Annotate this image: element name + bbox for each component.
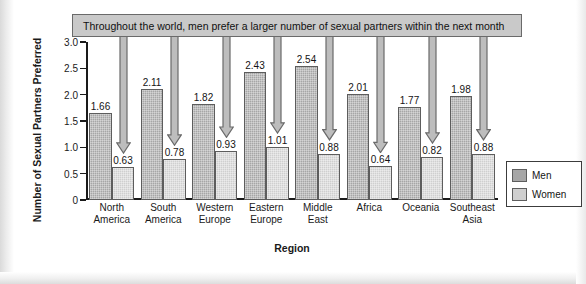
y-axis-tick xyxy=(80,68,86,69)
callout-banner: Throughout the world, men prefer a large… xyxy=(72,14,522,37)
bar-value-label: 2.43 xyxy=(245,60,264,71)
y-axis-title: Number of Sexual Partners Preferred xyxy=(31,35,43,225)
bar-value-label: 1.66 xyxy=(91,101,110,112)
chart-legend: Men Women xyxy=(506,161,582,207)
legend-label-men: Men xyxy=(532,170,551,181)
y-axis-tick xyxy=(80,94,86,95)
x-axis-tick-label: SoutheastAsia xyxy=(447,202,499,225)
bar-value-label: 1.77 xyxy=(400,95,419,106)
y-axis-tick-label: 2.0 xyxy=(64,89,78,100)
x-axis-tick-label: SouthAmerica xyxy=(138,202,190,225)
legend-label-women: Women xyxy=(532,189,566,200)
bar-women: 0.63 xyxy=(112,167,135,200)
bar-value-label: 0.93 xyxy=(216,139,235,150)
x-axis-tick-label: WesternEurope xyxy=(189,202,241,225)
y-axis-tick-label: 0.5 xyxy=(64,168,78,179)
bar-men: 2.54 xyxy=(295,66,318,200)
x-axis-tick-label: Africa xyxy=(344,202,396,214)
y-axis-tick xyxy=(80,147,86,148)
x-axis-tick-label: MiddleEast xyxy=(292,202,344,225)
callout-arrow-icon xyxy=(373,36,388,153)
page-edge-shadow-bottom xyxy=(0,272,586,284)
y-axis-tick-label: 0 xyxy=(72,195,78,206)
legend-swatch-men-icon xyxy=(512,169,527,182)
legend-swatch-women-icon xyxy=(512,188,527,201)
bar-men: 2.01 xyxy=(347,94,370,200)
page-edge-shadow-left xyxy=(0,0,14,284)
bar-value-label: 1.98 xyxy=(451,84,470,95)
callout-arrow-icon xyxy=(219,36,234,138)
x-axis-tick-label: NorthAmerica xyxy=(86,202,138,225)
bar-women: 0.78 xyxy=(163,159,186,200)
bar-women: 0.88 xyxy=(318,154,341,200)
y-axis-tick xyxy=(80,199,86,200)
bar-value-label: 0.63 xyxy=(113,155,132,166)
legend-item-women: Women xyxy=(512,185,577,204)
callout-arrow-icon xyxy=(476,36,491,141)
bar-men: 1.77 xyxy=(398,107,421,200)
chart-canvas: Number of Sexual Partners Preferred 00.5… xyxy=(14,4,570,266)
y-axis-tick-label: 1.5 xyxy=(64,116,78,127)
bar-value-label: 2.11 xyxy=(143,77,162,88)
y-axis-tick-label: 2.5 xyxy=(64,63,78,74)
chart-figure: Number of Sexual Partners Preferred 00.5… xyxy=(0,0,586,284)
x-axis-tick-label: EasternEurope xyxy=(241,202,293,225)
bar-value-label: 0.88 xyxy=(474,142,493,153)
bar-value-label: 0.88 xyxy=(319,142,338,153)
y-axis-tick xyxy=(80,173,86,174)
callout-arrow-icon xyxy=(270,36,285,134)
bar-women: 0.93 xyxy=(215,151,238,200)
y-axis-tick-label: 3.0 xyxy=(64,37,78,48)
bar-value-label: 0.64 xyxy=(371,154,390,165)
bar-women: 0.64 xyxy=(369,166,392,200)
bar-men: 2.43 xyxy=(244,72,267,200)
bar-value-label: 0.78 xyxy=(165,147,184,158)
callout-arrow-icon xyxy=(425,36,440,144)
bar-value-label: 1.82 xyxy=(194,92,213,103)
y-axis-line xyxy=(86,42,88,200)
legend-item-men: Men xyxy=(512,166,577,185)
bar-men: 1.82 xyxy=(192,104,215,200)
bar-value-label: 2.01 xyxy=(348,82,367,93)
bar-women: 1.01 xyxy=(266,147,289,200)
y-axis-tick-label: 1.0 xyxy=(64,142,78,153)
bar-men: 1.98 xyxy=(450,96,473,200)
page-edge-shadow-right xyxy=(576,0,586,284)
callout-arrow-icon xyxy=(322,36,337,141)
bar-value-label: 2.54 xyxy=(297,54,316,65)
bar-women: 0.82 xyxy=(421,157,444,200)
y-axis-tick xyxy=(80,120,86,121)
x-axis-tick-label: Oceania xyxy=(395,202,447,214)
x-axis-title: Region xyxy=(86,242,498,254)
bar-women: 0.88 xyxy=(472,154,495,200)
bar-men: 2.11 xyxy=(141,89,164,200)
bar-value-label: 0.82 xyxy=(422,145,441,156)
callout-arrow-icon xyxy=(116,36,131,154)
y-axis-tick xyxy=(80,41,86,42)
bar-men: 1.66 xyxy=(89,113,112,200)
bar-value-label: 1.01 xyxy=(268,135,287,146)
callout-arrow-icon xyxy=(167,36,182,146)
